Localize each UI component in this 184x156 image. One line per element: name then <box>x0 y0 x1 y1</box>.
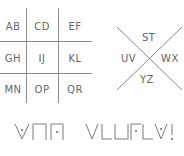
encoded-message <box>0 0 184 156</box>
glyph-corner-bl-2 <box>143 124 153 139</box>
glyph-v-dot <box>15 124 29 139</box>
glyph-v-dot-2 <box>155 124 167 139</box>
glyph-corner-bl <box>102 124 112 139</box>
glyph-v <box>86 124 98 139</box>
glyph-cup <box>115 124 128 139</box>
glyph-cap <box>33 124 46 140</box>
